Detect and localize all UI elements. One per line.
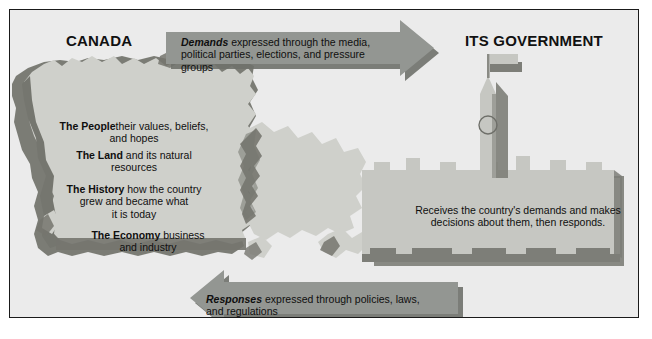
flag-icon: [490, 54, 518, 64]
responses-arrow-label: Responses expressed through policies, la…: [206, 293, 436, 318]
factor-history: The History how the country grew and bec…: [40, 171, 228, 220]
factor-people-label: The People: [60, 120, 116, 132]
page-title-government: ITS GOVERNMENT: [465, 32, 603, 49]
government-description: Receives the country's demands and makes…: [394, 204, 639, 229]
canada-map-east-coast: [246, 122, 366, 240]
peace-tower-edge-shade: [492, 94, 496, 178]
parliament-building-group: [362, 54, 624, 266]
factor-land: The Land and its natural resources: [40, 137, 228, 174]
responses-keyword: Responses: [206, 293, 262, 305]
diagram-frame: CANADA ITS GOVERNMENT Demands expressed …: [9, 9, 639, 318]
page-title-canada: CANADA: [66, 32, 132, 49]
demands-keyword: Demands: [181, 36, 228, 48]
peace-tower-shadow: [496, 82, 508, 178]
factor-land-text: and its natural resources: [111, 149, 192, 173]
factor-history-label: The History: [67, 183, 125, 195]
demands-arrow-label: Demands expressed through the media, pol…: [181, 36, 396, 73]
flagpole: [487, 54, 490, 78]
factor-economy-label: The Economy: [91, 229, 160, 241]
factor-economy: The Economy business and industry: [54, 217, 242, 254]
diagram-canvas: CANADA ITS GOVERNMENT Demands expressed …: [0, 0, 652, 339]
factor-land-label: The Land: [76, 149, 123, 161]
